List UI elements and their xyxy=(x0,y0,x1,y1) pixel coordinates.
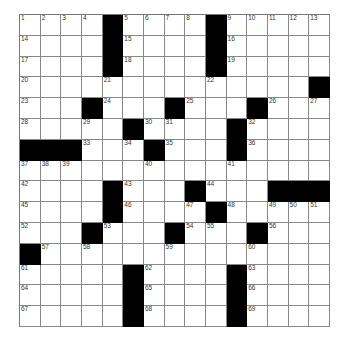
grid-cell[interactable]: 59 xyxy=(165,244,186,265)
grid-cell[interactable]: 62 xyxy=(144,265,165,286)
grid-cell[interactable]: 39 xyxy=(61,161,82,182)
grid-cell[interactable] xyxy=(41,285,62,306)
grid-cell[interactable] xyxy=(82,181,103,202)
grid-cell[interactable] xyxy=(61,181,82,202)
grid-cell[interactable] xyxy=(206,306,227,327)
grid-cell[interactable] xyxy=(82,285,103,306)
grid-cell[interactable] xyxy=(268,36,289,57)
grid-cell[interactable] xyxy=(103,265,124,286)
grid-cell[interactable]: 37 xyxy=(20,161,41,182)
grid-cell[interactable] xyxy=(247,181,268,202)
grid-cell[interactable]: 27 xyxy=(309,98,330,119)
grid-cell[interactable] xyxy=(41,77,62,98)
grid-cell[interactable] xyxy=(144,77,165,98)
grid-cell[interactable] xyxy=(144,57,165,78)
grid-cell[interactable]: 44 xyxy=(206,181,227,202)
grid-cell[interactable] xyxy=(268,119,289,140)
grid-cell[interactable] xyxy=(268,306,289,327)
grid-cell[interactable] xyxy=(309,244,330,265)
grid-cell[interactable]: 65 xyxy=(144,285,165,306)
grid-cell[interactable] xyxy=(309,285,330,306)
grid-cell[interactable] xyxy=(144,202,165,223)
grid-cell[interactable] xyxy=(165,57,186,78)
grid-cell[interactable] xyxy=(103,285,124,306)
grid-cell[interactable] xyxy=(185,265,206,286)
grid-cell[interactable] xyxy=(41,119,62,140)
grid-cell[interactable] xyxy=(247,202,268,223)
grid-cell[interactable]: 41 xyxy=(227,161,248,182)
grid-cell[interactable]: 31 xyxy=(165,119,186,140)
grid-cell[interactable] xyxy=(61,119,82,140)
grid-cell[interactable]: 46 xyxy=(123,202,144,223)
grid-cell[interactable]: 17 xyxy=(20,57,41,78)
grid-cell[interactable] xyxy=(61,57,82,78)
grid-cell[interactable]: 58 xyxy=(82,244,103,265)
grid-cell[interactable] xyxy=(309,265,330,286)
grid-cell[interactable] xyxy=(206,265,227,286)
grid-cell[interactable] xyxy=(206,98,227,119)
grid-cell[interactable] xyxy=(61,202,82,223)
grid-cell[interactable] xyxy=(165,36,186,57)
grid-cell[interactable]: 1 xyxy=(20,15,41,36)
grid-cell[interactable] xyxy=(185,244,206,265)
grid-cell[interactable]: 51 xyxy=(309,202,330,223)
grid-cell[interactable] xyxy=(103,306,124,327)
grid-cell[interactable]: 11 xyxy=(268,15,289,36)
grid-cell[interactable] xyxy=(185,140,206,161)
grid-cell[interactable] xyxy=(144,223,165,244)
grid-cell[interactable] xyxy=(82,161,103,182)
grid-cell[interactable] xyxy=(206,119,227,140)
grid-cell[interactable]: 50 xyxy=(289,202,310,223)
grid-cell[interactable]: 57 xyxy=(41,244,62,265)
grid-cell[interactable] xyxy=(185,119,206,140)
grid-cell[interactable]: 56 xyxy=(268,223,289,244)
grid-cell[interactable]: 3 xyxy=(61,15,82,36)
grid-cell[interactable] xyxy=(41,306,62,327)
grid-cell[interactable] xyxy=(61,223,82,244)
grid-cell[interactable] xyxy=(309,161,330,182)
grid-cell[interactable] xyxy=(227,98,248,119)
grid-cell[interactable]: 5 xyxy=(123,15,144,36)
grid-cell[interactable]: 30 xyxy=(144,119,165,140)
grid-cell[interactable] xyxy=(289,223,310,244)
grid-cell[interactable]: 25 xyxy=(185,98,206,119)
grid-cell[interactable]: 53 xyxy=(103,223,124,244)
grid-cell[interactable]: 22 xyxy=(206,77,227,98)
grid-cell[interactable] xyxy=(247,36,268,57)
grid-cell[interactable] xyxy=(206,285,227,306)
grid-cell[interactable]: 15 xyxy=(123,36,144,57)
grid-cell[interactable] xyxy=(206,140,227,161)
grid-cell[interactable] xyxy=(41,57,62,78)
grid-cell[interactable]: 18 xyxy=(123,57,144,78)
grid-cell[interactable] xyxy=(144,244,165,265)
grid-cell[interactable]: 35 xyxy=(165,140,186,161)
grid-cell[interactable] xyxy=(227,244,248,265)
grid-cell[interactable] xyxy=(82,57,103,78)
grid-cell[interactable]: 54 xyxy=(185,223,206,244)
grid-cell[interactable] xyxy=(41,36,62,57)
grid-cell[interactable]: 9 xyxy=(227,15,248,36)
grid-cell[interactable]: 10 xyxy=(247,15,268,36)
grid-cell[interactable] xyxy=(268,285,289,306)
grid-cell[interactable] xyxy=(289,36,310,57)
grid-cell[interactable]: 67 xyxy=(20,306,41,327)
grid-cell[interactable]: 21 xyxy=(103,77,124,98)
grid-cell[interactable] xyxy=(185,57,206,78)
grid-cell[interactable] xyxy=(289,77,310,98)
grid-cell[interactable] xyxy=(165,285,186,306)
grid-cell[interactable] xyxy=(247,77,268,98)
grid-cell[interactable]: 12 xyxy=(289,15,310,36)
grid-cell[interactable] xyxy=(289,161,310,182)
grid-cell[interactable]: 29 xyxy=(82,119,103,140)
grid-cell[interactable] xyxy=(61,265,82,286)
grid-cell[interactable]: 49 xyxy=(268,202,289,223)
grid-cell[interactable] xyxy=(103,244,124,265)
grid-cell[interactable] xyxy=(289,285,310,306)
grid-cell[interactable]: 32 xyxy=(247,119,268,140)
grid-cell[interactable] xyxy=(61,244,82,265)
grid-cell[interactable] xyxy=(206,161,227,182)
grid-cell[interactable] xyxy=(165,77,186,98)
grid-cell[interactable]: 36 xyxy=(247,140,268,161)
grid-cell[interactable] xyxy=(82,202,103,223)
grid-cell[interactable] xyxy=(165,306,186,327)
